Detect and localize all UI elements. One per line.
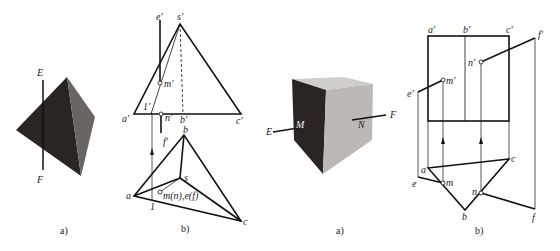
label-1-prime: 1' <box>143 101 151 112</box>
label-e-prime: e' <box>156 11 163 22</box>
label-N: N <box>357 119 366 130</box>
caption-left-b: b) <box>181 223 189 235</box>
label-F: F <box>389 109 397 120</box>
label-f-r: f <box>532 212 536 223</box>
label-m-prime: m' <box>164 78 174 89</box>
label-n-prime-r: n' <box>468 57 476 68</box>
label-1: 1 <box>150 201 155 212</box>
label-b-r: b <box>462 211 467 222</box>
tetrahedron-illustration <box>16 77 95 176</box>
label-mn-ef: m(n),e(f) <box>163 190 199 202</box>
label-n-r: n <box>472 186 477 197</box>
prism-projection-diagram <box>418 36 535 210</box>
label-a-prime: a' <box>122 113 130 124</box>
label-f-prime-r: f' <box>538 29 544 40</box>
caption-left-a: a) <box>60 225 68 237</box>
label-m-r: m <box>446 177 453 188</box>
label-f: F <box>36 174 44 185</box>
label-s-prime: s' <box>177 11 184 22</box>
label-M: M <box>295 119 305 130</box>
label-e-r: e <box>412 178 417 189</box>
label-b: b <box>183 124 188 135</box>
label-a-prime-r: a' <box>428 24 436 35</box>
prism-illustration <box>273 77 386 174</box>
label-f-prime: f' <box>163 136 169 147</box>
label-s: s <box>184 172 188 183</box>
label-b-prime-r: b' <box>463 24 471 35</box>
label-c-prime: c' <box>236 115 243 126</box>
label-m-prime-r: m' <box>446 75 456 86</box>
label-a: a <box>126 190 131 201</box>
label-c: c <box>243 216 248 227</box>
label-n-prime: n' <box>165 112 173 123</box>
label-E: E <box>265 126 272 137</box>
label-c-r: c <box>511 153 516 164</box>
label-e-prime-r: e' <box>407 88 414 99</box>
label-e: E <box>36 67 43 78</box>
label-a-r: a <box>421 164 426 175</box>
caption-right-a: a) <box>336 225 344 237</box>
label-c-prime-r: c' <box>506 24 513 35</box>
caption-right-b: b) <box>475 225 483 237</box>
